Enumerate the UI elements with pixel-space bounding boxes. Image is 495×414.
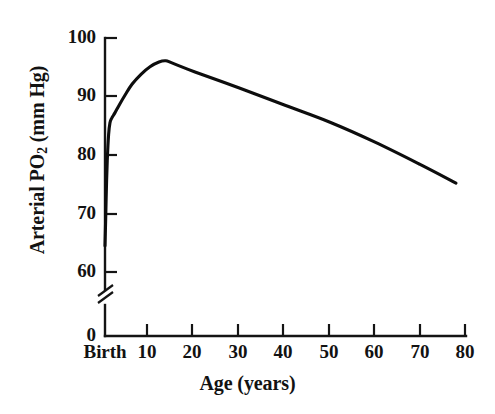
y-axis-title: Arterial PO2 (mm Hg) xyxy=(26,30,51,290)
x-tick-label-60: 60 xyxy=(354,341,394,363)
y-tick-label-100: 100 xyxy=(50,26,96,48)
x-tick-label-80: 80 xyxy=(445,341,485,363)
x-tick-label-70: 70 xyxy=(400,341,440,363)
x-tick-label-30: 30 xyxy=(218,341,258,363)
y-axis-title-subscript: 2 xyxy=(35,147,50,154)
x-axis-title: Age (years) xyxy=(0,372,495,395)
y-tick-label-80: 80 xyxy=(50,143,96,165)
x-tick-label-20: 20 xyxy=(172,341,212,363)
y-tick-label-60: 60 xyxy=(50,260,96,282)
x-tick-label-50: 50 xyxy=(309,341,349,363)
x-tick-label-10: 10 xyxy=(127,341,167,363)
po2-curve xyxy=(105,61,456,246)
x-tick-label-40: 40 xyxy=(263,341,303,363)
y-tick-label-70: 70 xyxy=(50,202,96,224)
y-tick-label-90: 90 xyxy=(50,84,96,106)
chart-figure: 100 90 80 70 60 0 Birth 10 20 30 40 50 6… xyxy=(0,0,495,414)
y-axis-title-tail: (mm Hg) xyxy=(26,66,48,147)
y-axis-title-lead: Arterial PO xyxy=(26,154,48,255)
